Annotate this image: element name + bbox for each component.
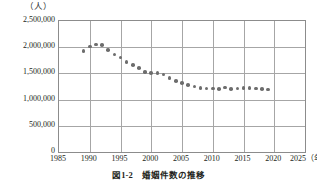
y-axis-unit-label: （人）: [25, 1, 52, 11]
x-axis-tick-label: 2025（年）: [290, 155, 317, 163]
data-series: [59, 21, 305, 152]
data-point: [94, 43, 98, 47]
data-point: [174, 79, 178, 83]
plot-area: [58, 20, 306, 153]
data-point: [248, 86, 252, 90]
figure-caption: 図1-2 婚姻件数の推移: [0, 170, 317, 180]
data-point: [125, 60, 129, 64]
y-axis-tick-label: 2,000,000: [0, 42, 55, 50]
data-point: [205, 87, 209, 91]
y-axis-tick-label: 1,000,000: [0, 95, 55, 103]
data-point: [254, 87, 258, 91]
data-point: [193, 85, 197, 89]
data-point: [113, 53, 117, 57]
data-point: [168, 76, 172, 80]
figure-chart: （人） 0500,0001,000,0001,500,0002,000,0002…: [0, 0, 317, 180]
data-point: [223, 86, 227, 90]
data-point: [106, 48, 110, 52]
x-axis-tick-label: 2020: [251, 155, 295, 163]
data-point: [236, 87, 240, 91]
data-point: [156, 71, 160, 75]
data-point: [88, 45, 92, 49]
y-axis-tick-label: 500,000: [0, 121, 55, 129]
data-point: [211, 87, 215, 91]
data-point: [137, 66, 141, 70]
data-point: [82, 49, 86, 53]
data-point: [119, 56, 123, 60]
data-point: [100, 43, 104, 47]
data-point: [180, 81, 184, 85]
data-point: [217, 87, 221, 91]
y-axis-tick-label: 1,500,000: [0, 68, 55, 76]
data-point: [242, 86, 246, 90]
data-point: [260, 87, 264, 91]
data-point: [149, 71, 153, 75]
data-point: [229, 87, 233, 91]
y-axis-tick-label: 0: [0, 147, 55, 155]
y-axis-tick-label: 2,500,000: [0, 16, 55, 24]
data-point: [266, 88, 270, 92]
data-point: [199, 86, 203, 90]
data-point: [143, 70, 147, 74]
data-point: [186, 83, 190, 87]
data-point: [162, 73, 166, 77]
data-point: [131, 63, 135, 67]
